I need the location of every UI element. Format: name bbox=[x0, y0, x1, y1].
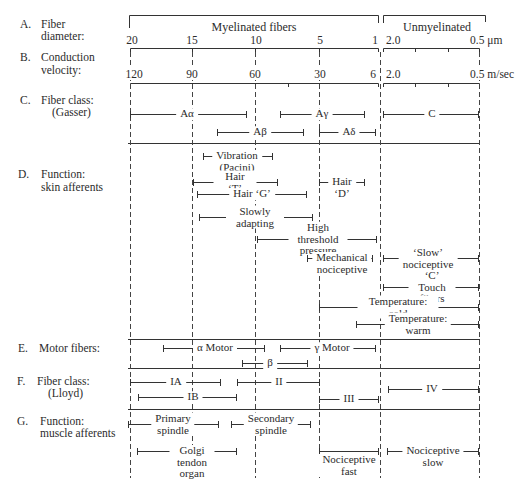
range-label: Mechanical nociceptive bbox=[312, 252, 371, 275]
range-label: Nociceptive slow bbox=[402, 445, 463, 468]
diameter-tick-2-0: 2.0 bbox=[385, 34, 401, 46]
range-slowly-adapting: Slowly adapting bbox=[199, 217, 313, 218]
row-letter-e: E. bbox=[18, 342, 28, 354]
range-label: Aγ bbox=[312, 108, 333, 120]
row-letter-c: C. bbox=[20, 94, 31, 106]
range-label: γ Motor bbox=[310, 342, 353, 354]
range-secondary-spindle: Secondary spindle bbox=[231, 424, 311, 425]
row-letter-g: G. bbox=[17, 415, 28, 427]
velocity-tick-120: 120 bbox=[124, 68, 143, 80]
range-label: Aα bbox=[176, 108, 198, 120]
range-label: Nociceptive fast bbox=[318, 454, 379, 477]
row-label-f-line2: (Lloyd) bbox=[48, 387, 83, 399]
range-beta-motor: β bbox=[242, 363, 308, 364]
velocity-tick-60: 60 bbox=[248, 68, 262, 80]
range-temperature-warm: Temperature: warm bbox=[356, 324, 479, 325]
diameter-tick-1: 1 bbox=[371, 34, 379, 46]
range-label: Hair ‘G’ bbox=[229, 188, 275, 200]
row-label-b-line2: velocity: bbox=[41, 64, 81, 76]
row-label-g-line2: muscle afferents bbox=[40, 427, 115, 439]
row-letter-a: A. bbox=[20, 18, 31, 30]
diameter-tick-15: 15 bbox=[185, 34, 199, 46]
header-myelinated: Myelinated fibers bbox=[210, 21, 299, 33]
row-label-c-line2: (Gasser) bbox=[52, 106, 91, 118]
row-label-e-line1: Motor fibers: bbox=[39, 342, 100, 354]
velocity-axis-myelinated bbox=[131, 84, 379, 88]
range-label: Secondary spindle bbox=[244, 413, 298, 436]
range-label: Temperature: warm bbox=[385, 313, 451, 336]
range-c-fibers: C bbox=[383, 114, 479, 115]
velocity-tick-6: 6 bbox=[369, 68, 377, 80]
range-high-threshold-pressure: High threshold pressure bbox=[257, 239, 377, 240]
range-a-gamma: Aγ bbox=[280, 114, 365, 115]
diameter-tick-0-5: 0.5 μm bbox=[469, 34, 503, 46]
range-label: β bbox=[263, 357, 277, 369]
range-temperature-cold: Temperature: cold bbox=[319, 307, 479, 308]
diameter-tick-10: 10 bbox=[249, 34, 263, 46]
velocity-tick-2-0: 2.0 bbox=[385, 68, 401, 80]
velocity-tick-30: 30 bbox=[313, 68, 327, 80]
header-unmyelinated: Unmyelinated bbox=[401, 21, 473, 33]
row-label-b-line1: Conduction bbox=[41, 51, 95, 63]
row-label-g-line1: Function: bbox=[40, 415, 84, 427]
row-label-c-line1: Fiber class: bbox=[41, 94, 94, 106]
range-label: IA bbox=[166, 376, 186, 388]
range-ib: IB bbox=[138, 397, 237, 398]
row-letter-d: D. bbox=[18, 168, 29, 180]
range-label: C bbox=[424, 108, 439, 120]
nerve-fiber-classification-figure: Myelinated fibers Unmyelinated A. Fiber … bbox=[0, 0, 530, 495]
row-label-d-line1: Function: bbox=[41, 168, 85, 180]
range-label: ‘Slow’ nociceptive bbox=[399, 247, 458, 270]
range-hair-d: Hair ‘D’ bbox=[319, 182, 365, 183]
axis-lines bbox=[128, 16, 486, 410]
velocity-axis-unmyelinated bbox=[384, 84, 480, 88]
range-hair-t: Hair ‘T’ bbox=[193, 182, 278, 183]
row-letter-b: B. bbox=[20, 51, 31, 63]
row-label-f-line1: Fiber class: bbox=[37, 375, 90, 387]
range-label: α Motor bbox=[193, 342, 237, 354]
range-ii: II bbox=[237, 382, 320, 383]
range-nociceptive-slow: Nociceptive slow bbox=[387, 451, 479, 452]
diameter-tick-5: 5 bbox=[316, 34, 324, 46]
range-ia: IA bbox=[130, 382, 221, 383]
range-golgi-tendon-organ: Golgi tendon organ bbox=[137, 451, 237, 452]
velocity-tick-90: 90 bbox=[185, 68, 199, 80]
velocity-tick-0-5: 0.5 m/sec bbox=[469, 68, 515, 80]
range-label: IB bbox=[184, 391, 203, 403]
range-a-delta: Aδ bbox=[319, 132, 376, 133]
range-label: Aδ bbox=[338, 126, 359, 138]
range-label: Golgi tendon organ bbox=[170, 445, 215, 480]
range-iv: IV bbox=[388, 389, 479, 390]
range-alpha-motor: α Motor bbox=[163, 348, 265, 349]
range-hair-g: Hair ‘G’ bbox=[197, 194, 307, 195]
range-label: Aβ bbox=[249, 126, 271, 138]
range-slow-nociceptive: ‘Slow’ nociceptive bbox=[383, 258, 479, 259]
range-a-alpha: Aα bbox=[130, 114, 247, 115]
range-primary-spindle: Primary spindle bbox=[128, 424, 219, 425]
range-nociceptive-fast: Nociceptive fast bbox=[319, 451, 379, 452]
range-label: Hair ‘D’ bbox=[328, 176, 356, 199]
range-iii: III bbox=[319, 399, 379, 400]
row-label-a-line2: diameter: bbox=[41, 30, 84, 42]
range-label: Slowly adapting bbox=[226, 206, 284, 229]
range-label: Primary spindle bbox=[151, 413, 194, 436]
diameter-axis-unmyelinated bbox=[384, 49, 480, 53]
row-label-a-line1: Fiber bbox=[41, 18, 65, 30]
range-a-beta: Aβ bbox=[217, 132, 304, 133]
diameter-tick-20: 20 bbox=[125, 34, 139, 46]
diameter-axis-myelinated bbox=[131, 49, 379, 53]
range-label: III bbox=[340, 393, 359, 405]
row-label-d-line2: skin afferents bbox=[41, 181, 103, 193]
range-label: IV bbox=[422, 383, 442, 395]
row-letter-f: F. bbox=[17, 375, 25, 387]
range-c-touch-fibers: ‘C’ Touch fibers bbox=[383, 287, 479, 288]
range-vibration-pacini: Vibration (Pacini) bbox=[203, 156, 273, 157]
range-gamma-motor: γ Motor bbox=[280, 348, 376, 349]
range-label: II bbox=[271, 376, 286, 388]
range-mechanical-nociceptive: Mechanical nociceptive bbox=[307, 258, 373, 259]
